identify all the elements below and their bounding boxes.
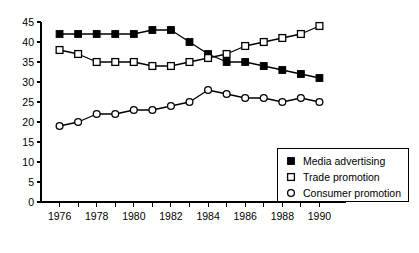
data-point (297, 95, 304, 102)
x-tick-label: 1988 (271, 210, 295, 222)
data-point (112, 31, 119, 38)
legend-marker-open-circle (288, 190, 295, 197)
data-point (316, 75, 323, 82)
x-tick-label: 1980 (122, 210, 146, 222)
data-point (149, 63, 156, 70)
chart-canvas: 051015202530354045 197619781980198219841… (0, 0, 419, 253)
legend-marker-filled-square (288, 158, 295, 165)
data-point (56, 31, 63, 38)
series-trade-promotion (56, 23, 323, 70)
data-point (186, 59, 193, 66)
y-tick-label: 0 (28, 196, 34, 208)
data-point (56, 123, 63, 130)
data-point (205, 55, 212, 62)
y-tick-label: 10 (22, 156, 34, 168)
y-axis: 051015202530354045 (22, 16, 41, 208)
data-point (168, 27, 175, 34)
data-point (279, 67, 286, 74)
data-point (260, 95, 267, 102)
data-point (186, 99, 193, 106)
y-tick-label: 5 (28, 176, 34, 188)
y-tick-label: 30 (22, 76, 34, 88)
x-tick-label: 1982 (159, 210, 183, 222)
data-point (168, 63, 175, 70)
data-point (260, 63, 267, 70)
series-layer (56, 23, 323, 130)
data-point (279, 35, 286, 42)
data-point (112, 59, 119, 66)
data-point (93, 31, 100, 38)
data-point (112, 111, 119, 118)
data-point (75, 51, 82, 58)
y-tick-label: 40 (22, 36, 34, 48)
x-axis: 19761978198019821984198619881990 (41, 202, 346, 222)
data-point (93, 111, 100, 118)
data-point (205, 87, 212, 94)
y-tick-label: 20 (22, 116, 34, 128)
data-point (130, 31, 137, 38)
legend-marker-open-square (288, 174, 295, 181)
data-point (279, 99, 286, 106)
data-point (316, 99, 323, 106)
x-tick-label: 1990 (308, 210, 332, 222)
y-tick-label: 35 (22, 56, 34, 68)
x-tick-label: 1984 (196, 210, 220, 222)
data-point (223, 51, 230, 58)
data-point (186, 39, 193, 46)
data-point (75, 119, 82, 126)
chart-legend: Media advertisingTrade promotionConsumer… (277, 148, 408, 201)
data-point (297, 71, 304, 78)
data-point (260, 39, 267, 46)
x-tick-label: 1976 (48, 210, 72, 222)
data-point (75, 31, 82, 38)
series-line (60, 90, 320, 126)
x-tick-label: 1978 (85, 210, 109, 222)
series-consumer-promotion (56, 87, 323, 130)
data-point (242, 95, 249, 102)
line-chart: 051015202530354045 197619781980198219841… (0, 0, 419, 253)
data-point (297, 31, 304, 38)
data-point (130, 107, 137, 114)
data-point (242, 43, 249, 50)
data-point (93, 59, 100, 66)
data-point (316, 23, 323, 30)
y-tick-label: 45 (22, 16, 34, 28)
data-point (168, 103, 175, 110)
y-tick-label: 25 (22, 96, 34, 108)
data-point (242, 59, 249, 66)
legend-item[interactable]: Consumer promotion (288, 187, 402, 199)
data-point (149, 27, 156, 34)
legend-label: Media advertising (303, 155, 385, 167)
legend-item[interactable]: Media advertising (288, 155, 386, 167)
data-point (223, 91, 230, 98)
data-point (56, 47, 63, 54)
data-point (149, 107, 156, 114)
y-tick-label: 15 (22, 136, 34, 148)
legend-label: Consumer promotion (303, 187, 401, 199)
data-point (130, 59, 137, 66)
x-tick-label: 1986 (234, 210, 258, 222)
legend-label: Trade promotion (303, 171, 380, 183)
data-point (223, 59, 230, 66)
